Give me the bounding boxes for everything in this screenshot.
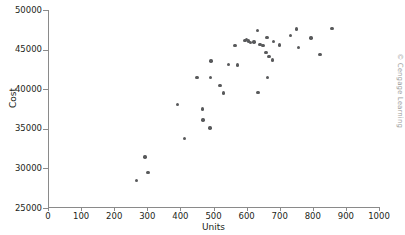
data-point bbox=[265, 36, 268, 39]
data-point bbox=[201, 118, 204, 121]
data-point bbox=[261, 44, 264, 47]
data-point bbox=[227, 63, 230, 66]
data-point bbox=[209, 59, 212, 62]
data-point bbox=[330, 27, 333, 30]
y-axis-label: Cost bbox=[8, 68, 18, 128]
x-axis-tick-label: 1000 bbox=[359, 211, 399, 221]
y-axis-tick bbox=[43, 10, 48, 11]
data-point bbox=[236, 63, 239, 66]
y-axis-tick-label: 30000 bbox=[15, 164, 42, 173]
data-point bbox=[256, 29, 259, 32]
data-point bbox=[309, 36, 312, 39]
data-point bbox=[278, 43, 281, 46]
y-axis-tick-label: 50000 bbox=[15, 6, 42, 15]
x-axis-label: Units bbox=[48, 222, 379, 232]
data-point bbox=[176, 103, 179, 106]
data-point bbox=[218, 84, 221, 87]
y-axis-tick-label: 45000 bbox=[15, 45, 42, 54]
data-point bbox=[183, 137, 186, 140]
y-axis-tick bbox=[43, 168, 48, 169]
y-axis-tick-label: 35000 bbox=[15, 124, 42, 133]
y-axis-line bbox=[48, 10, 49, 208]
data-point bbox=[256, 91, 259, 94]
y-axis-tick bbox=[43, 50, 48, 51]
plot-area bbox=[48, 10, 379, 208]
data-point bbox=[289, 34, 292, 37]
data-point bbox=[233, 44, 236, 47]
data-point bbox=[143, 155, 146, 158]
data-point bbox=[266, 76, 269, 79]
data-point bbox=[295, 27, 298, 30]
y-axis-tick bbox=[43, 129, 48, 130]
data-point bbox=[209, 76, 212, 79]
data-point bbox=[201, 107, 204, 110]
data-point bbox=[318, 53, 321, 56]
copyright-credit: © Cengage Learning bbox=[396, 53, 404, 128]
data-point bbox=[195, 76, 198, 79]
data-point bbox=[135, 179, 138, 182]
data-point bbox=[222, 91, 225, 94]
data-point bbox=[208, 126, 211, 129]
data-point bbox=[297, 46, 300, 49]
data-point bbox=[272, 40, 275, 43]
scatter-chart: 250003000035000400004500050000 010020030… bbox=[0, 0, 405, 235]
y-axis-tick-label: 40000 bbox=[15, 85, 42, 94]
data-point bbox=[264, 51, 267, 54]
data-point bbox=[252, 40, 255, 43]
y-axis-tick bbox=[43, 89, 48, 90]
data-point bbox=[271, 58, 274, 61]
data-point bbox=[146, 171, 149, 174]
